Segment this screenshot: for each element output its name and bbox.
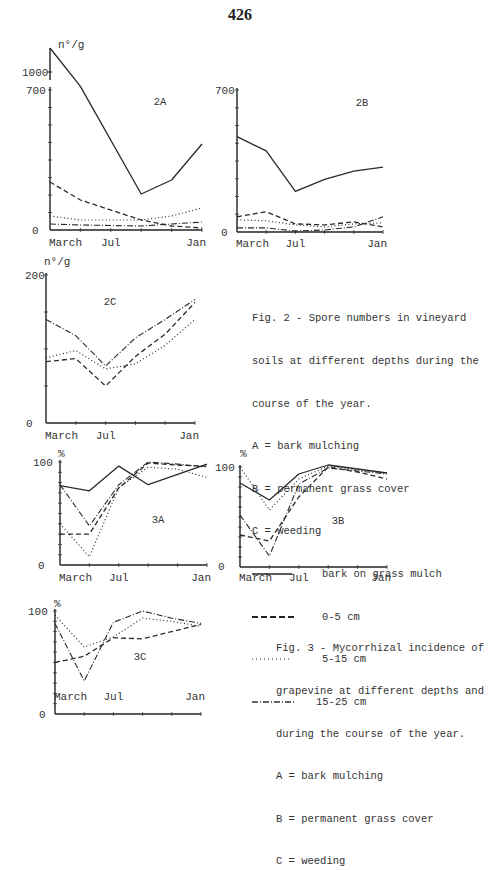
fig3-caption: Fig. 3 - Mycorrhizal incidence of grapev… [276,613,484,870]
x-tick-label: Jul [103,691,123,703]
chart-panel-2c: 0200n°/gMarchJulJan2C [25,256,199,442]
series-line-d0_5 [55,624,201,662]
x-tick-label: Jan [191,572,211,584]
fig2-caption-line: C = weeding [252,524,479,538]
series-line-d0_5 [46,302,195,386]
chart-panel-2b: 0700MarchJulJan2B [215,85,387,250]
fig2-caption-line: Fig. 2 - Spore numbers in vineyard [252,311,479,325]
series-line-d5_15 [50,208,202,220]
x-tick-label: Jan [185,691,205,703]
x-tick-label: Jul [101,237,121,249]
legend-row-bark: bark on grass mulch [252,567,479,581]
fig3-caption-line: C = weeding [276,854,484,868]
y-tick-label: 700 [215,85,235,97]
x-tick-label: Jul [96,430,116,442]
series-line-bark [50,48,202,194]
fig3-caption-line: Fig. 3 - Mycorrhizal incidence of [276,641,484,655]
y-axis-label: n°/g [58,39,84,51]
panel-title: 3A [152,514,165,526]
y-tick-label: 0 [221,227,228,239]
y-tick-label: 700 [26,85,46,97]
fig2-caption-line: soils at different depths during the [252,354,479,368]
x-tick-label: March [59,572,92,584]
chart-panel-3c: 0100%MarchJulJan3C [28,598,205,721]
chart-panel-2a: 07001000n°/gMarchJulJan2A [22,39,206,249]
fig3-caption-line: B = permanent grass cover [276,812,484,826]
series-line-d15_25 [55,611,201,681]
y-tick-label: 100 [33,457,53,469]
y-tick-label: 0 [218,561,225,573]
series-line-d15_25 [50,222,202,226]
y-tick-label: 0 [32,225,39,237]
fig2-caption-line: B = permanent grass cover [252,482,479,496]
series-line-d0_5 [50,182,202,228]
y-axis-label: % [58,448,65,460]
series-line-d5_15 [237,220,383,227]
y-tick-label: 100 [28,606,48,618]
chart-panel-3a: 0100%MarchJulJan3A [33,448,211,584]
x-tick-label: March [236,238,269,250]
x-tick-label: Jan [179,430,199,442]
y-tick-label: 0 [38,560,45,572]
panel-title: 3C [134,651,147,663]
x-tick-label: March [45,430,78,442]
y-tick-label: 1000 [22,67,48,79]
series-line-d0_5 [60,463,207,534]
y-tick-label: 100 [215,462,235,474]
panel-title: 2A [154,96,167,108]
fig3-caption-line: grapevine at different depths and [276,684,484,698]
series-line-d15_25 [46,299,195,366]
y-axis-label: % [240,448,247,460]
y-axis-label: % [54,598,61,610]
x-tick-label: Jan [186,237,206,249]
y-tick-label: 200 [25,270,45,282]
fig3-caption-line: during the course of the year. [276,727,484,741]
y-tick-label: 0 [39,709,46,721]
series-line-bark [237,137,383,192]
fig3-caption-line: A = bark mulching [276,769,484,783]
fig2-caption-line: course of the year. [252,397,479,411]
x-tick-label: Jul [285,238,305,250]
y-tick-label: 0 [26,418,33,430]
panel-title: 2C [104,296,117,308]
x-tick-label: Jul [109,572,129,584]
x-tick-label: March [54,691,87,703]
panel-title: 2B [356,97,369,109]
series-line-d5_15 [60,467,207,557]
x-tick-label: Jan [367,238,387,250]
y-axis-label: n°/g [44,256,70,268]
solid-line-swatch-icon [252,571,302,577]
x-tick-label: March [49,237,82,249]
legend-label: bark on grass mulch [322,567,442,581]
fig2-caption-line: A = bark mulching [252,439,479,453]
